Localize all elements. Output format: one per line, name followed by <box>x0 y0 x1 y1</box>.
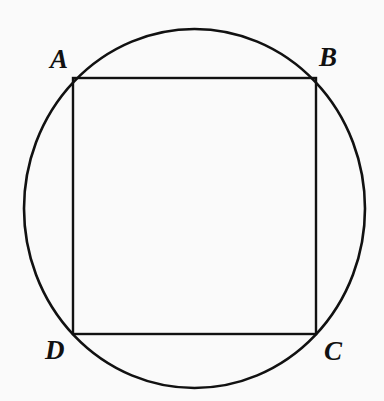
geometry-figure: A B C D <box>0 0 384 401</box>
vertex-point-d <box>72 333 74 335</box>
vertex-label-a: A <box>50 46 68 73</box>
vertex-point-a <box>72 77 74 79</box>
vertex-label-d: D <box>45 337 65 364</box>
vertex-point-b <box>315 77 317 79</box>
vertex-label-c: C <box>324 338 342 365</box>
vertex-label-b: B <box>319 44 337 71</box>
vertex-point-c <box>315 333 317 335</box>
